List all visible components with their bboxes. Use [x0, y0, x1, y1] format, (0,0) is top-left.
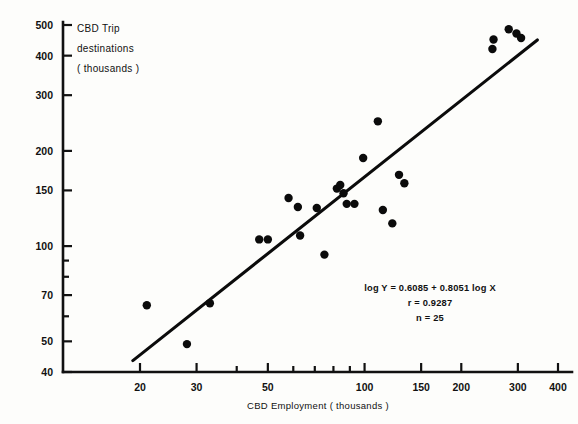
y-axis-title-line: destinations — [77, 43, 134, 54]
y-tick-label: 50 — [41, 335, 53, 347]
x-tick-label: 300 — [509, 381, 527, 393]
data-point — [320, 250, 328, 258]
y-tick-label: 150 — [35, 184, 53, 196]
data-point — [489, 35, 497, 43]
data-point — [339, 189, 347, 197]
x-tick-label: 400 — [549, 381, 567, 393]
scatter-plot: 2030501001502003004004050701001502003004… — [0, 0, 578, 424]
y-tick-label: 70 — [41, 289, 53, 301]
regression-line — [133, 40, 538, 361]
correlation-coefficient: r = 0.9287 — [408, 298, 453, 308]
data-points-group — [143, 25, 526, 348]
data-point — [359, 154, 367, 162]
x-tick-label: 200 — [453, 381, 471, 393]
annotation-group: log Y = 0.6085 + 0.8051 log Xr = 0.9287n… — [364, 283, 496, 323]
y-tick-label: 200 — [35, 145, 53, 157]
data-point — [517, 34, 525, 42]
data-point — [400, 179, 408, 187]
data-point — [143, 301, 151, 309]
data-point — [206, 299, 214, 307]
data-point — [488, 45, 496, 53]
data-point — [395, 171, 403, 179]
data-point — [294, 203, 302, 211]
y-tick-label: 300 — [35, 89, 53, 101]
y-tick-label: 40 — [41, 366, 53, 378]
y-axis-title-line: ( thousands ) — [77, 63, 139, 74]
x-tick-label: 100 — [356, 381, 374, 393]
data-point — [183, 340, 191, 348]
data-point — [264, 235, 272, 243]
data-point — [374, 117, 382, 125]
chart-page: 2030501001502003004004050701001502003004… — [0, 0, 578, 424]
regression-equation: log Y = 0.6085 + 0.8051 log X — [364, 283, 496, 293]
data-point — [336, 181, 344, 189]
axis-titles-group: CBD Tripdestinations( thousands )CBD Emp… — [77, 23, 389, 411]
x-axis-title: CBD Employment ( thousands ) — [247, 400, 389, 411]
y-tick-label: 400 — [35, 50, 53, 62]
data-point — [284, 194, 292, 202]
x-tick-label: 30 — [191, 381, 203, 393]
data-point — [379, 206, 387, 214]
data-point — [343, 200, 351, 208]
data-point — [255, 235, 263, 243]
data-point — [296, 231, 304, 239]
data-point — [505, 25, 513, 33]
y-axis-title-line: CBD Trip — [77, 23, 120, 34]
data-point — [350, 200, 358, 208]
regression-line-group — [133, 40, 538, 361]
x-tick-label: 20 — [134, 381, 146, 393]
y-tick-label: 500 — [35, 19, 53, 31]
data-point — [313, 204, 321, 212]
ticks-group — [63, 25, 558, 372]
sample-size: n = 25 — [416, 313, 444, 323]
data-point — [388, 219, 396, 227]
y-tick-label: 100 — [35, 240, 53, 252]
x-tick-label: 50 — [262, 381, 274, 393]
x-tick-label: 150 — [412, 381, 430, 393]
